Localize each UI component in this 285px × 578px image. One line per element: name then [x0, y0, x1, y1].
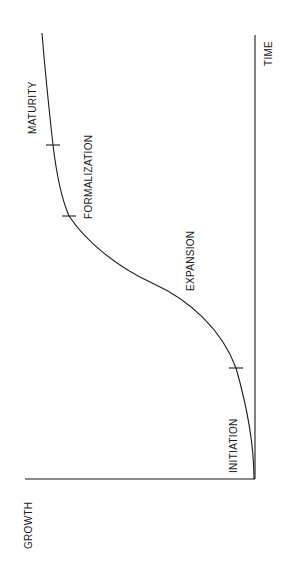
- growth-stages-diagram: TIME GROWTH INITIATION EXPANSION FORMALI…: [0, 0, 285, 578]
- growth-axis-label: GROWTH: [23, 502, 34, 549]
- stage-label-formalization: FORMALIZATION: [83, 135, 94, 219]
- growth-curve: [42, 33, 254, 479]
- stage-label-expansion: EXPANSION: [185, 231, 196, 291]
- stage-label-maturity: MATURITY: [27, 81, 38, 134]
- time-axis-label: TIME: [263, 41, 274, 66]
- stage-label-initiation: INITIATION: [228, 419, 239, 473]
